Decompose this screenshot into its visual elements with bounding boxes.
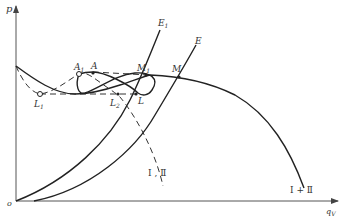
label-l2: L2: [109, 98, 120, 109]
pump-characteristic-diagram: p o qV A1 A M1 M L L1 L2 E1 E Ⅰ , Ⅱ Ⅰ + …: [0, 0, 344, 224]
point-l1: [38, 92, 43, 97]
label-l1: L1: [33, 99, 44, 110]
x-axis-label: qV: [326, 207, 336, 217]
point-l2: [116, 92, 119, 95]
label-e: E: [194, 36, 202, 46]
label-single-pump: Ⅰ , Ⅱ: [148, 168, 166, 178]
label-l: L: [137, 96, 144, 106]
label-a1: A1: [73, 62, 84, 73]
y-axis-label: p: [6, 3, 13, 14]
single-pump-curve: [16, 66, 163, 186]
system-curve-e1: [16, 30, 160, 201]
point-m: [177, 75, 180, 78]
label-m1: M1: [136, 63, 150, 74]
label-m: M: [171, 64, 182, 74]
label-a: A: [90, 61, 98, 71]
label-e1: E1: [157, 18, 168, 29]
point-a: [91, 71, 94, 74]
label-combined-pump: Ⅰ + Ⅱ: [290, 185, 313, 195]
origin-label: o: [7, 199, 12, 208]
